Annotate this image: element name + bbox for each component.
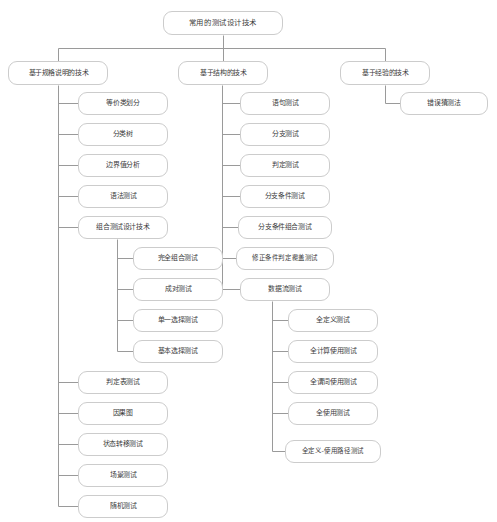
node-all-combinations[interactable]: 完全组合测试 bbox=[133, 247, 223, 270]
node-each-choice[interactable]: 单一选择测试 bbox=[133, 309, 223, 332]
node-label: 基本选择测试 bbox=[158, 348, 198, 356]
node-branch-condition-testing[interactable]: 分支条件测试 bbox=[240, 185, 330, 208]
node-decision-testing[interactable]: 判定测试 bbox=[240, 154, 330, 177]
node-cause-effect-graph[interactable]: 因果图 bbox=[78, 402, 168, 425]
node-all-du-paths[interactable]: 全定义-使用路径测试 bbox=[285, 440, 381, 463]
node-error-guessing[interactable]: 错误猜测法 bbox=[400, 92, 488, 115]
node-label: 场景测试 bbox=[110, 472, 137, 480]
node-state-transition[interactable]: 状态转移测试 bbox=[78, 433, 168, 456]
node-mcdc-testing[interactable]: 修正条件判定覆盖测试 bbox=[236, 247, 334, 270]
node-label: 状态转移测试 bbox=[103, 441, 143, 449]
node-label: 数据流测试 bbox=[268, 286, 301, 294]
node-combinatorial-design[interactable]: 组合测试设计技术 bbox=[78, 216, 168, 239]
node-label: 全谓词使用测试 bbox=[310, 379, 356, 387]
node-label: 边界值分析 bbox=[106, 162, 139, 170]
node-boundary-value-analysis[interactable]: 边界值分析 bbox=[78, 154, 168, 177]
node-data-flow-testing[interactable]: 数据流测试 bbox=[240, 278, 330, 301]
node-label: 错误猜测法 bbox=[427, 100, 460, 108]
node-label: 全定义测试 bbox=[316, 317, 349, 325]
node-equivalence-partitioning[interactable]: 等价类划分 bbox=[78, 92, 168, 115]
node-label: 全使用测试 bbox=[316, 410, 349, 418]
node-spec-based[interactable]: 基于规格说明的技术 bbox=[8, 61, 108, 85]
node-label: 全定义-使用路径测试 bbox=[302, 448, 364, 455]
node-label: 分类树 bbox=[113, 131, 133, 139]
node-label: 单一选择测试 bbox=[158, 317, 198, 325]
node-label: 修正条件判定覆盖测试 bbox=[252, 255, 318, 262]
node-label: 随机测试 bbox=[110, 503, 137, 511]
node-label: 分支测试 bbox=[272, 131, 299, 139]
node-label: 基于规格说明的技术 bbox=[28, 69, 88, 77]
node-label: 全计算使用测试 bbox=[310, 348, 356, 356]
node-label: 组合测试设计技术 bbox=[96, 224, 149, 232]
node-statement-testing[interactable]: 语句测试 bbox=[240, 92, 330, 115]
node-random-testing[interactable]: 随机测试 bbox=[78, 495, 168, 518]
node-label: 分支条件测试 bbox=[265, 193, 305, 201]
node-label: 基于经验的技术 bbox=[362, 69, 408, 77]
node-decision-table[interactable]: 判定表测试 bbox=[78, 371, 168, 394]
node-all-uses[interactable]: 全使用测试 bbox=[288, 402, 378, 425]
node-label: 等价类划分 bbox=[106, 100, 139, 108]
node-label: 分支条件组合测试 bbox=[258, 224, 311, 232]
node-label: 完全组合测试 bbox=[158, 255, 198, 263]
node-base-choice[interactable]: 基本选择测试 bbox=[133, 340, 223, 363]
node-label: 语法测试 bbox=[110, 193, 137, 201]
node-all-p-uses[interactable]: 全谓词使用测试 bbox=[288, 371, 378, 394]
node-label: 语句测试 bbox=[272, 100, 299, 108]
node-all-defs[interactable]: 全定义测试 bbox=[288, 309, 378, 332]
node-pairwise[interactable]: 成对测试 bbox=[133, 278, 223, 301]
node-scenario-testing[interactable]: 场景测试 bbox=[78, 464, 168, 487]
node-all-c-uses[interactable]: 全计算使用测试 bbox=[288, 340, 378, 363]
diagram-canvas: 常用的测试设计技术 基于规格说明的技术 基于结构的技术 基于经验的技术 错误猜测… bbox=[0, 0, 497, 522]
node-branch-condition-combination-testing[interactable]: 分支条件组合测试 bbox=[238, 216, 332, 239]
node-label: 判定表测试 bbox=[106, 379, 139, 387]
node-experience-based[interactable]: 基于经验的技术 bbox=[340, 61, 430, 85]
node-structure-based[interactable]: 基于结构的技术 bbox=[178, 61, 268, 85]
node-label: 成对测试 bbox=[165, 286, 192, 294]
node-classification-tree[interactable]: 分类树 bbox=[78, 123, 168, 146]
node-label: 因果图 bbox=[113, 410, 133, 418]
node-label: 基于结构的技术 bbox=[200, 69, 246, 77]
node-label: 常用的测试设计技术 bbox=[189, 19, 257, 27]
node-root[interactable]: 常用的测试设计技术 bbox=[163, 11, 283, 35]
node-branch-testing[interactable]: 分支测试 bbox=[240, 123, 330, 146]
node-syntax-testing[interactable]: 语法测试 bbox=[78, 185, 168, 208]
node-label: 判定测试 bbox=[272, 162, 299, 170]
